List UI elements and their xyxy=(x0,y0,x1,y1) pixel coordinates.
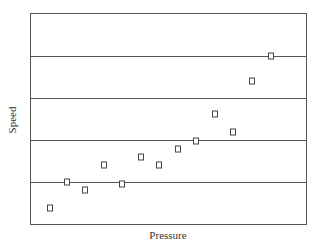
y-gridlines xyxy=(31,57,307,183)
scatter-chart xyxy=(0,0,320,249)
data-point-marker xyxy=(65,179,70,185)
y-axis-label-text: Speed xyxy=(6,107,18,134)
data-point-marker xyxy=(120,181,125,187)
data-point-marker xyxy=(213,111,218,117)
data-point-marker xyxy=(269,53,274,59)
data-point-marker xyxy=(48,205,53,211)
plot-frame xyxy=(31,14,307,225)
data-point-marker xyxy=(231,129,236,135)
data-point-marker xyxy=(83,187,88,193)
data-point-marker xyxy=(157,162,162,168)
data-point-marker xyxy=(250,78,255,84)
data-point-marker xyxy=(176,146,181,152)
data-point-marker xyxy=(102,162,107,168)
data-point-marker xyxy=(139,154,144,160)
data-points xyxy=(48,53,274,211)
y-axis-label: Speed xyxy=(2,100,22,140)
data-point-marker xyxy=(194,138,199,144)
x-axis-label: Pressure xyxy=(30,229,306,241)
